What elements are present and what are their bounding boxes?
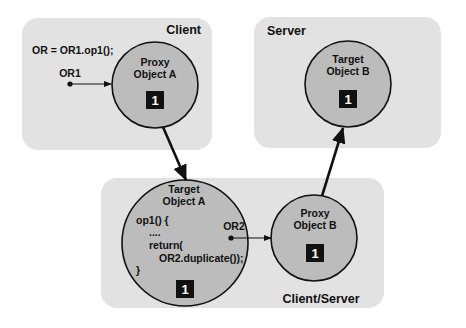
target-object-a-line1: Target [168, 183, 200, 195]
or2-label: OR2 [223, 220, 245, 232]
target-object-a-code-line-3: return( [149, 239, 183, 251]
client-code-line: OR = OR1.op1(); [32, 44, 113, 56]
proxy-object-a-badge-number: 1 [151, 93, 158, 108]
target-object-a-code-line-5: } [136, 264, 140, 276]
proxy-object-b-badge-number: 1 [311, 246, 318, 261]
target-object-a-badge-number: 1 [181, 282, 188, 297]
proxy-object-a-line2: Object A [134, 68, 177, 80]
target-object-b-line2: Object B [326, 65, 370, 77]
proxy-object-b: Proxy Object B 1 [271, 195, 357, 281]
target-object-a-code-line-2: .... [149, 226, 161, 238]
target-object-a-code-line-1: op1() { [136, 214, 169, 226]
proxy-object-b-line2: Object B [293, 219, 337, 231]
target-object-b-line1: Target [332, 53, 364, 65]
proxy-diagram: Client Server Client/Server OR = OR1.op1… [0, 0, 466, 328]
or1-label: OR1 [59, 67, 81, 79]
target-object-a-line2: Object A [163, 195, 206, 207]
proxy-object-a-circle [112, 42, 198, 128]
proxy-object-b-line1: Proxy [300, 207, 329, 219]
target-object-a-code-line-4: OR2.duplicate()); [159, 252, 244, 264]
client-server-region-label: Client/Server [282, 292, 359, 306]
client-region-label: Client [166, 23, 202, 37]
target-object-b: Target Object B 1 [305, 41, 391, 127]
proxy-object-a-line1: Proxy [140, 56, 169, 68]
proxy-object-a: Proxy Object A 1 [112, 42, 198, 128]
target-object-a: Target Object A op1() { .... return( OR2… [122, 180, 248, 306]
target-object-b-badge-number: 1 [344, 92, 351, 107]
server-region-label: Server [267, 24, 306, 38]
